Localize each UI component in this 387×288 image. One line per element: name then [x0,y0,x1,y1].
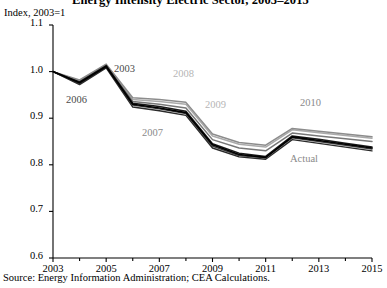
series-annotation-2010: 2010 [300,97,321,108]
series-annotation-2008: 2008 [173,68,194,79]
y-tick-label: 0.9 [17,110,43,121]
y-tick-label: 0.8 [17,157,43,168]
series-annotation-2007: 2007 [142,127,163,138]
y-tick-label: 0.7 [17,203,43,214]
y-tick-label: 0.6 [17,250,43,261]
series-annotation-2009: 2009 [205,99,226,110]
y-tick-label: 1.0 [17,64,43,75]
series-annotation-actual: Actual [290,153,318,164]
source-note: Source: Energy Information Administratio… [3,272,270,283]
y-tick-label: 1.1 [17,17,43,28]
x-tick-label: 2015 [352,263,387,274]
series-lines [53,64,372,159]
series-annotation-2003: 2003 [114,63,135,74]
series-annotation-2006: 2006 [66,94,87,105]
x-tick-label: 2013 [299,263,339,274]
